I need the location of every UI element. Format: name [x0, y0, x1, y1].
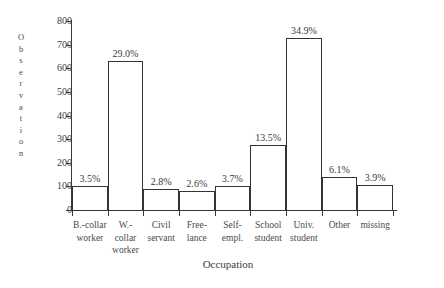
- x-axis-tick: [393, 210, 394, 216]
- bar[interactable]: [357, 185, 393, 211]
- x-axis-category-label-line: student: [277, 232, 331, 245]
- y-axis-tick-label: 100: [10, 181, 72, 191]
- bar-value-label: 34.9%: [280, 25, 328, 36]
- x-axis-category-label-line: worker: [99, 244, 153, 257]
- x-axis-title-text: Occupation: [203, 258, 254, 270]
- bar[interactable]: [215, 186, 251, 211]
- x-axis-category-label-line: missing: [348, 219, 402, 232]
- bar-value-label: 29.0%: [102, 48, 150, 59]
- x-axis-title: Occupation: [0, 258, 444, 270]
- bar-value-label: 13.5%: [244, 132, 292, 143]
- y-axis-tick-label: 500: [10, 87, 72, 97]
- bar-value-label: 3.9%: [351, 172, 399, 183]
- bar[interactable]: [72, 186, 108, 211]
- bar-chart-figure: Observation 0100200300400500600700800 3.…: [0, 0, 444, 288]
- bar-value-label: 3.7%: [209, 173, 257, 184]
- x-axis-category-label: missing: [348, 219, 402, 232]
- bar[interactable]: [286, 38, 322, 211]
- bar[interactable]: [179, 191, 215, 211]
- y-axis-tick-label: 200: [10, 158, 72, 168]
- bar[interactable]: [143, 189, 179, 211]
- bar-value-label: 3.5%: [66, 173, 114, 184]
- y-axis-tick-label: 800: [10, 16, 72, 26]
- y-axis-tick-label: 700: [10, 40, 72, 50]
- y-axis-tick-label: 0: [10, 205, 72, 215]
- y-axis-tick-label: 600: [10, 63, 72, 73]
- y-axis-tick-label: 400: [10, 111, 72, 121]
- y-axis-tick-label: 300: [10, 134, 72, 144]
- bar[interactable]: [108, 61, 144, 211]
